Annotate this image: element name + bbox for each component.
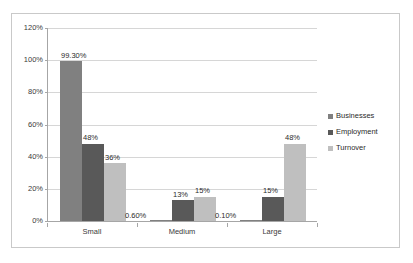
x-category-label: Small xyxy=(47,228,137,236)
bar-data-label: 99.30% xyxy=(61,52,86,60)
y-tick-label: 0% xyxy=(32,217,43,225)
bar[interactable] xyxy=(194,197,216,221)
x-axis: SmallMediumLarge xyxy=(47,223,317,243)
legend-label: Employment xyxy=(336,128,378,136)
bar[interactable] xyxy=(262,197,284,221)
y-tick-label: 80% xyxy=(28,88,43,96)
plot-area: 99.30%48%36%0.60%13%15%0.10%15%48% xyxy=(47,28,317,221)
bar[interactable] xyxy=(240,220,262,221)
bar-group: 0.10%15%48% xyxy=(228,28,318,221)
bar-group: 0.60%13%15% xyxy=(138,28,228,221)
chart-legend: BusinessesEmploymentTurnover xyxy=(328,108,398,156)
x-category-label: Large xyxy=(227,228,317,236)
bar-data-label: 48% xyxy=(285,134,300,142)
bar-data-label: 0.60% xyxy=(125,212,146,220)
bar[interactable] xyxy=(60,61,82,221)
legend-label: Businesses xyxy=(336,112,374,120)
gridline xyxy=(48,221,317,222)
x-tick-mark xyxy=(137,223,138,227)
chart-container: 0%20%40%60%80%100%120% 99.30%48%36%0.60%… xyxy=(11,13,400,248)
x-category-label: Medium xyxy=(137,228,227,236)
legend-item-businesses[interactable]: Businesses xyxy=(328,108,398,124)
bar-group: 99.30%48%36% xyxy=(48,28,138,221)
legend-item-turnover[interactable]: Turnover xyxy=(328,140,398,156)
bar-data-label: 15% xyxy=(263,187,278,195)
legend-swatch-icon xyxy=(328,114,333,119)
y-tick-mark xyxy=(45,221,48,222)
bar-data-label: 48% xyxy=(83,134,98,142)
legend-swatch-icon xyxy=(328,130,333,135)
bar[interactable] xyxy=(104,163,126,221)
y-tick-label: 100% xyxy=(24,56,43,64)
bar-data-label: 0.10% xyxy=(215,212,236,220)
bar[interactable] xyxy=(150,220,172,221)
legend-item-employment[interactable]: Employment xyxy=(328,124,398,140)
bar[interactable] xyxy=(82,144,104,221)
y-tick-label: 120% xyxy=(24,24,43,32)
bar-data-label: 36% xyxy=(105,154,120,162)
x-tick-mark xyxy=(227,223,228,227)
bar[interactable] xyxy=(284,144,306,221)
bar-data-label: 15% xyxy=(195,187,210,195)
bar-data-label: 13% xyxy=(173,191,188,199)
y-tick-label: 60% xyxy=(28,121,43,129)
bar[interactable] xyxy=(172,200,194,221)
x-tick-mark xyxy=(47,223,48,227)
legend-label: Turnover xyxy=(336,144,366,152)
y-axis: 0%20%40%60%80%100%120% xyxy=(12,28,43,221)
y-tick-label: 20% xyxy=(28,185,43,193)
x-tick-mark xyxy=(317,223,318,227)
y-tick-label: 40% xyxy=(28,153,43,161)
legend-swatch-icon xyxy=(328,146,333,151)
